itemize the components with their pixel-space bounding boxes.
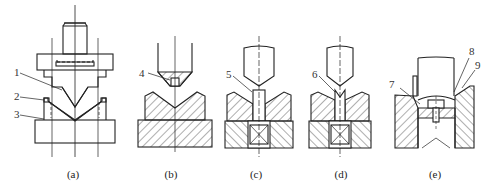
- callout-6: 6: [312, 68, 318, 80]
- subfigure-b: [138, 36, 212, 152]
- callout-2: 2: [14, 90, 20, 102]
- caption-a: (a): [58, 168, 88, 180]
- callout-7: 7: [389, 78, 395, 90]
- caption-b: (b): [156, 168, 186, 180]
- callout-3: 3: [14, 108, 20, 120]
- callout-4: 4: [139, 67, 145, 79]
- caption-d: (d): [326, 168, 356, 180]
- subfigure-d: [309, 36, 371, 157]
- bending-die-diagram: 1 2 3 4 5: [0, 0, 494, 192]
- callout-8: 8: [469, 45, 475, 57]
- callout-5: 5: [226, 68, 232, 80]
- subfigure-a: [20, 5, 115, 157]
- caption-c: (c): [241, 168, 271, 180]
- subfigure-c: [225, 36, 293, 157]
- subfigure-e: [395, 57, 475, 148]
- callout-1: 1: [14, 66, 20, 78]
- caption-e: (e): [420, 168, 450, 180]
- callout-9: 9: [475, 59, 481, 71]
